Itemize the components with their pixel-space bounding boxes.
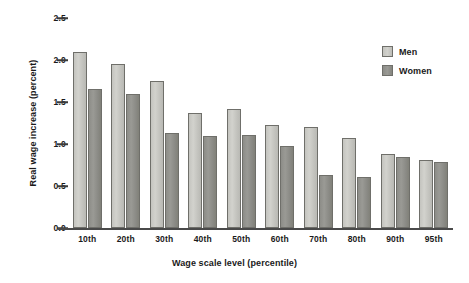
bar-group <box>299 18 338 228</box>
bar-men-30th <box>150 81 164 228</box>
bar-men-80th <box>342 138 356 228</box>
bar-group <box>222 18 261 228</box>
bar-men-70th <box>304 127 318 228</box>
legend-swatch-icon <box>382 65 393 76</box>
bar-men-40th <box>188 113 202 228</box>
x-axis-line <box>58 228 453 230</box>
bar-group <box>107 18 146 228</box>
bar-women-30th <box>165 133 179 228</box>
bar-men-95th <box>419 160 433 228</box>
bar-group <box>184 18 223 228</box>
bar-men-60th <box>265 125 279 228</box>
bar-women-40th <box>203 136 217 228</box>
bar-women-20th <box>126 94 140 228</box>
legend-label: Women <box>399 66 432 76</box>
legend-swatch-icon <box>382 46 393 57</box>
legend-item-women: Women <box>382 65 432 76</box>
bar-group <box>261 18 300 228</box>
bar-women-60th <box>280 146 294 228</box>
bar-women-10th <box>88 89 102 228</box>
bar-women-70th <box>319 175 333 228</box>
bar-women-80th <box>357 177 371 228</box>
y-axis-tick-mark <box>57 17 68 19</box>
y-axis-tick-mark <box>57 59 68 61</box>
bar-men-90th <box>381 154 395 228</box>
bar-men-20th <box>111 64 125 228</box>
bar-women-90th <box>396 157 410 228</box>
chart-legend: MenWomen <box>382 46 432 84</box>
bar-group <box>338 18 377 228</box>
bar-group <box>145 18 184 228</box>
y-axis-tick-mark <box>57 101 68 103</box>
legend-item-men: Men <box>382 46 432 57</box>
bar-group <box>68 18 107 228</box>
y-axis-tick-mark <box>57 143 68 145</box>
bar-chart: Real wage increase (percent) 2.52.01.51.… <box>0 0 469 283</box>
bar-men-10th <box>73 52 87 228</box>
x-axis-title: Wage scale level (percentile) <box>0 258 469 268</box>
x-axis-tick-label: 95th <box>409 234 459 244</box>
legend-label: Men <box>399 47 417 57</box>
bar-women-95th <box>434 162 448 228</box>
bar-women-50th <box>242 135 256 228</box>
y-axis-tick-mark <box>57 185 68 187</box>
bar-men-50th <box>227 109 241 228</box>
